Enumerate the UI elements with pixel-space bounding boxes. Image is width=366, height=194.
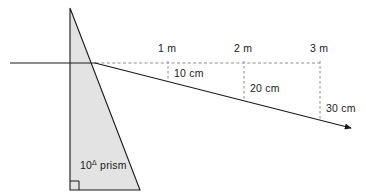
deviated-ray xyxy=(95,63,351,128)
prism-power-label: 10Δ prism xyxy=(80,160,127,171)
deviation-label-20cm: 20 cm xyxy=(250,83,280,94)
deviation-label-30cm: 30 cm xyxy=(326,103,356,114)
prism-power-value: 10 xyxy=(80,159,92,171)
distance-label-1m: 1 m xyxy=(158,43,176,54)
prism-deviation-diagram: 1 m 2 m 3 m 10 cm 20 cm 30 cm 10Δ prism xyxy=(0,0,366,194)
prism-word-label: prism xyxy=(97,159,127,171)
deviation-label-10cm: 10 cm xyxy=(174,68,204,79)
distance-label-3m: 3 m xyxy=(310,43,328,54)
diagram-canvas xyxy=(0,0,366,194)
distance-label-2m: 2 m xyxy=(234,43,252,54)
